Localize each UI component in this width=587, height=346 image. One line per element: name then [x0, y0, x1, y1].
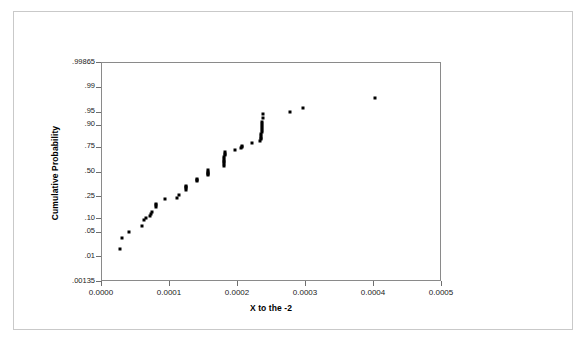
x-axis-tick — [169, 281, 170, 286]
y-axis-tick-label: .10 — [40, 214, 95, 222]
x-axis-tick-label: 0.0003 — [275, 288, 335, 297]
y-axis-tick-label: .99 — [40, 82, 95, 90]
data-point — [262, 112, 265, 115]
data-point — [288, 111, 291, 114]
scatter-points-layer — [102, 63, 440, 280]
data-point — [185, 184, 188, 187]
data-point — [250, 142, 253, 145]
x-axis-title: X to the -2 — [101, 303, 441, 313]
data-point — [119, 248, 122, 251]
y-axis-tick-label: .75 — [40, 142, 95, 150]
x-axis-tick — [305, 281, 306, 286]
data-point — [151, 211, 154, 214]
x-axis-tick — [237, 281, 238, 286]
data-point — [195, 177, 198, 180]
data-point — [141, 224, 144, 227]
data-point — [175, 196, 178, 199]
y-axis-tick-label: .25 — [40, 192, 95, 200]
x-axis-tick-label: 0.0000 — [71, 288, 131, 297]
y-axis-tick-label: .99865 — [40, 58, 95, 66]
data-point — [233, 149, 236, 152]
plot-area — [101, 62, 441, 281]
y-axis-tick-label: .50 — [40, 167, 95, 175]
chart-page: Cumulative Probability .99865.99.95.90.7… — [0, 0, 587, 346]
y-axis-tick-label: .01 — [40, 252, 95, 260]
data-point — [241, 144, 244, 147]
y-axis-tick-label: .95 — [40, 107, 95, 115]
y-axis-tick-label: .05 — [40, 227, 95, 235]
data-point — [374, 96, 377, 99]
x-axis-tick — [373, 281, 374, 286]
data-point — [128, 230, 131, 233]
data-point — [155, 202, 158, 205]
x-axis-tick — [101, 281, 102, 286]
data-point — [163, 197, 166, 200]
x-axis-tick-label: 0.0002 — [207, 288, 267, 297]
data-point — [224, 151, 227, 154]
y-axis-tick-label: .00135 — [40, 277, 95, 285]
x-axis-tick-label: 0.0001 — [139, 288, 199, 297]
data-point — [261, 120, 264, 123]
data-point — [301, 106, 304, 109]
data-point — [121, 237, 124, 240]
data-point — [207, 169, 210, 172]
x-axis-tick-label: 0.0005 — [411, 288, 471, 297]
y-axis-tick-label: .90 — [40, 120, 95, 128]
x-axis-tick — [441, 281, 442, 286]
x-axis-tick-label: 0.0004 — [343, 288, 403, 297]
data-point — [177, 193, 180, 196]
data-point — [261, 117, 264, 120]
